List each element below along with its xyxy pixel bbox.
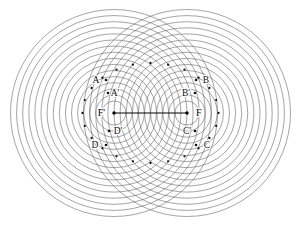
intersection-dot	[183, 69, 185, 71]
diagram-canvas: F'FAA'BB'CC'DD'	[0, 0, 299, 225]
point-dot-A	[105, 79, 108, 82]
intersection-dot	[197, 147, 199, 149]
focus-label-F: F	[196, 107, 202, 118]
point-label-B: B	[203, 75, 209, 85]
intersection-dot	[167, 64, 169, 66]
intersection-dot	[208, 87, 210, 89]
point-label-A: A	[93, 75, 100, 85]
point-label-B2: B'	[182, 88, 190, 98]
intersection-dot	[81, 112, 83, 114]
point-label-C: C	[204, 140, 210, 150]
point-dot-D2	[108, 130, 111, 133]
confocal-circles-figure: F'FAA'BB'CC'DD'	[0, 0, 299, 225]
intersection-dot	[84, 99, 86, 101]
point-label-D: D	[92, 140, 99, 150]
intersection-dot	[149, 162, 151, 164]
point-dot-B	[195, 79, 198, 82]
point-label-C2: C'	[183, 126, 191, 136]
point-dot-D	[105, 144, 108, 147]
focus-dot-F-prime	[112, 111, 115, 114]
intersection-dot	[215, 125, 217, 127]
point-dot-A2	[107, 92, 110, 95]
intersection-dot	[115, 69, 117, 71]
point-label-A2: A'	[111, 88, 120, 98]
point-label-D2: D'	[114, 126, 123, 136]
intersection-dot	[115, 155, 117, 157]
point-dot-C2	[194, 130, 197, 133]
intersection-dot	[149, 62, 151, 64]
intersection-dot	[90, 87, 92, 89]
intersection-dot	[183, 155, 185, 157]
intersection-dot	[84, 125, 86, 127]
point-dot-C	[195, 144, 198, 147]
intersection-dot	[132, 160, 134, 162]
intersection-dot	[217, 112, 219, 114]
intersection-dot	[208, 137, 210, 139]
point-dot-B2	[194, 92, 197, 95]
intersection-dot	[215, 99, 217, 101]
intersection-dot	[90, 137, 92, 139]
focus-label-F-prime: F'	[98, 107, 106, 118]
intersection-dot	[101, 147, 103, 149]
focus-dot-F	[185, 111, 188, 114]
intersection-dot	[197, 76, 199, 78]
intersection-dot	[101, 76, 103, 78]
intersection-dot	[132, 64, 134, 66]
intersection-dot	[167, 160, 169, 162]
